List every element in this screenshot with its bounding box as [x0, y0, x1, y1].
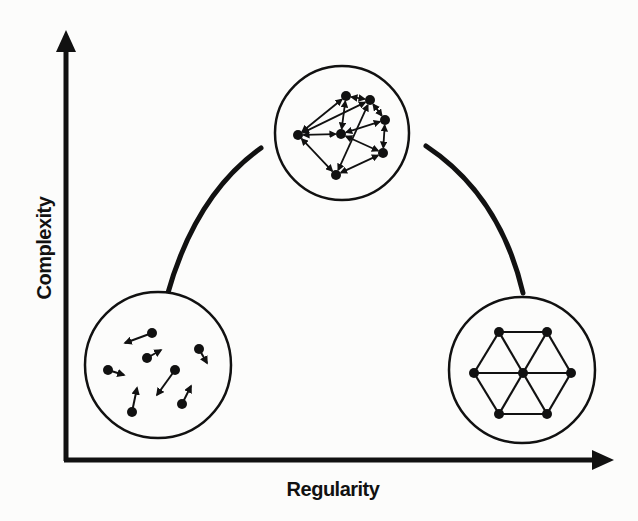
- particle: [147, 328, 157, 338]
- network-edge: [303, 134, 335, 135]
- lattice-node: [494, 409, 504, 419]
- x-axis: [64, 450, 614, 470]
- panel-complex-network: [275, 66, 409, 200]
- lattice-node: [542, 327, 552, 337]
- panel-random: [85, 292, 231, 438]
- y-axis: [56, 30, 76, 461]
- lattice-node: [469, 368, 479, 378]
- panel-lattice: [449, 297, 595, 443]
- network-node: [331, 170, 341, 180]
- network-node: [380, 115, 390, 125]
- lattice-node: [542, 409, 552, 419]
- complexity-regularity-diagram: Complexity Regularity: [0, 0, 638, 521]
- network-node: [336, 129, 346, 139]
- y-axis-label: Complexity: [33, 195, 55, 299]
- network-node: [341, 91, 351, 101]
- lattice-node: [566, 368, 576, 378]
- x-axis-arrowhead-icon: [592, 450, 614, 470]
- arc-left: [167, 148, 261, 296]
- particle: [103, 365, 113, 375]
- particle: [177, 399, 187, 409]
- lattice-node: [494, 327, 504, 337]
- y-axis-arrowhead-icon: [56, 30, 76, 52]
- lattice-node: [518, 368, 528, 378]
- x-axis-label: Regularity: [287, 478, 381, 500]
- arc-right: [426, 146, 523, 293]
- network-node: [293, 130, 303, 140]
- network-node: [378, 148, 388, 158]
- particle: [194, 344, 204, 354]
- particle: [170, 365, 180, 375]
- particle: [127, 407, 137, 417]
- panel-random-border: [85, 292, 231, 438]
- particle: [142, 353, 152, 363]
- network-node: [365, 95, 375, 105]
